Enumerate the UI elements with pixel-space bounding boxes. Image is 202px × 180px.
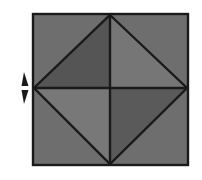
geometric-figure-canvas bbox=[0, 0, 202, 180]
figure-root: Square with inscribed diamond divided in… bbox=[0, 0, 202, 180]
